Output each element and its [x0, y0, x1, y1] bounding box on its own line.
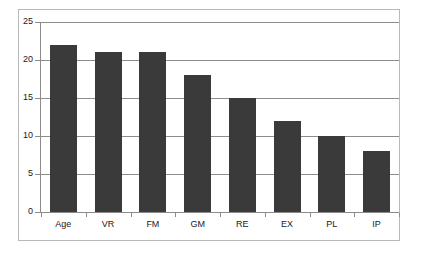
y-tick-label: 20: [5, 55, 33, 64]
y-tick-mark: [35, 212, 40, 213]
x-tick-mark: [265, 213, 266, 217]
y-tick-label: 25: [5, 17, 33, 26]
bar[interactable]: [318, 136, 345, 212]
x-tick-label: RE: [220, 219, 265, 229]
x-tick-mark: [131, 213, 132, 217]
bar[interactable]: [184, 75, 211, 212]
y-axis-tick-labels: 0510152025: [0, 0, 33, 257]
x-tick-mark: [399, 213, 400, 217]
bar[interactable]: [363, 151, 390, 212]
x-tick-mark: [310, 213, 311, 217]
x-tick-label: Age: [41, 219, 86, 229]
y-tick-mark: [35, 174, 40, 175]
y-tick-label: 0: [5, 207, 33, 216]
bar[interactable]: [95, 52, 122, 212]
y-tick-mark: [35, 98, 40, 99]
x-tick-label: PL: [310, 219, 355, 229]
x-tick-label: VR: [86, 219, 131, 229]
y-tick-mark: [35, 22, 40, 23]
x-tick-mark: [86, 213, 87, 217]
y-tick-label: 10: [5, 131, 33, 140]
x-tick-label: EX: [265, 219, 310, 229]
x-tick-mark: [220, 213, 221, 217]
y-tick-label: 5: [5, 169, 33, 178]
x-tick-mark: [354, 213, 355, 217]
y-tick-mark: [35, 136, 40, 137]
bar-chart-figure: 0510152025 AgeVRFMGMREEXPLIP: [0, 0, 426, 257]
x-tick-label: IP: [354, 219, 399, 229]
bar[interactable]: [50, 45, 77, 212]
y-tick-mark: [35, 60, 40, 61]
bar[interactable]: [139, 52, 166, 212]
x-tick-mark: [41, 213, 42, 217]
x-tick-mark: [175, 213, 176, 217]
x-tick-label: FM: [131, 219, 176, 229]
bar[interactable]: [274, 121, 301, 212]
y-tick-label: 15: [5, 93, 33, 102]
bars-layer: [41, 22, 399, 212]
bar[interactable]: [229, 98, 256, 212]
x-tick-label: GM: [175, 219, 220, 229]
